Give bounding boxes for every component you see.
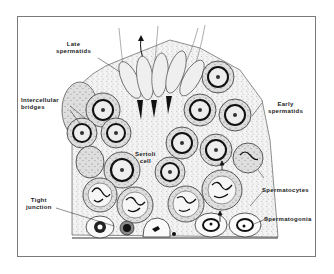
cell xyxy=(202,61,234,93)
cell xyxy=(219,99,251,131)
cell xyxy=(166,127,198,159)
cell xyxy=(67,118,97,148)
cell xyxy=(195,213,227,237)
cell xyxy=(200,134,232,166)
cell xyxy=(117,187,153,223)
cell xyxy=(101,118,131,148)
label-spermatocytes: Spermatocytes xyxy=(262,187,309,194)
seminiferous-epithelium-drawing xyxy=(0,0,334,274)
cell xyxy=(233,143,263,173)
label-tight-junction: Tight junction xyxy=(26,197,52,211)
label-spermatogonia: Spermatogonia xyxy=(264,216,312,223)
cell xyxy=(83,178,117,212)
cell xyxy=(120,221,134,235)
cell xyxy=(229,213,261,237)
cell xyxy=(168,186,204,222)
label-intercellular-bridges: Intercellular bridges xyxy=(21,97,59,111)
label-sertoli-cell: Sertoli cell xyxy=(135,151,156,165)
cell xyxy=(202,170,242,210)
label-early-spermatids: Early spermatids xyxy=(268,101,303,115)
cell xyxy=(155,157,185,187)
cell xyxy=(76,146,104,178)
cell xyxy=(184,94,216,126)
label-late-spermatids: Late spermatids xyxy=(56,41,91,55)
cell xyxy=(86,216,114,238)
